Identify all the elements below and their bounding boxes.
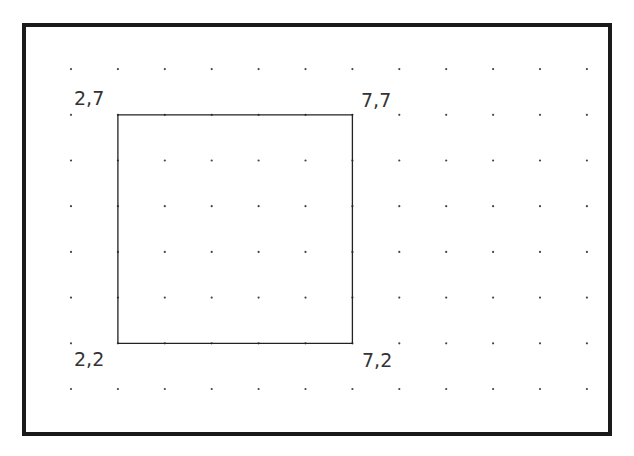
grid-dot [492, 388, 494, 390]
grid-dot [539, 297, 541, 299]
label-top-right: 7,7 [361, 89, 391, 111]
grid-dot [586, 205, 588, 207]
grid-dot [351, 68, 353, 70]
grid-dot [164, 68, 166, 70]
grid-dot [539, 114, 541, 116]
grid-dot [492, 297, 494, 299]
grid-dot [445, 68, 447, 70]
grid-dot [304, 205, 306, 207]
grid-dot [539, 388, 541, 390]
grid-dot [586, 159, 588, 161]
grid-dot [445, 205, 447, 207]
grid-dot [211, 388, 213, 390]
grid-dot [211, 251, 213, 253]
dot-grid-canvas: 2,7 7,7 2,2 7,2 [0, 0, 634, 456]
label-top-left: 2,7 [74, 87, 104, 109]
grid-dot [539, 159, 541, 161]
grid-dot [445, 114, 447, 116]
grid-dot [398, 251, 400, 253]
grid-dot [70, 297, 72, 299]
grid-dot [539, 68, 541, 70]
grid-dot [586, 68, 588, 70]
grid-dot [304, 388, 306, 390]
grid-dot [70, 205, 72, 207]
grid-dot [398, 205, 400, 207]
grid-dot [539, 251, 541, 253]
grid-dot [304, 251, 306, 253]
grid-dot [70, 114, 72, 116]
grid-dot [211, 205, 213, 207]
grid-dot [258, 205, 260, 207]
grid-dot [211, 297, 213, 299]
grid-dot [398, 342, 400, 344]
grid-dot [445, 251, 447, 253]
grid-dot [117, 68, 119, 70]
grid-dot [164, 251, 166, 253]
grid-dot [539, 342, 541, 344]
grid-dot [70, 68, 72, 70]
label-bottom-right: 7,2 [362, 349, 392, 371]
grid-dot [70, 342, 72, 344]
grid-dot [164, 205, 166, 207]
grid-dots [70, 68, 588, 390]
grid-dot [304, 297, 306, 299]
grid-dot [398, 68, 400, 70]
grid-dot [445, 159, 447, 161]
grid-dot [304, 159, 306, 161]
grid-dot [586, 342, 588, 344]
grid-dot [164, 297, 166, 299]
grid-dot [211, 68, 213, 70]
grid-dot [492, 159, 494, 161]
grid-dot [492, 342, 494, 344]
grid-dot [164, 159, 166, 161]
grid-dot [586, 388, 588, 390]
grid-dot [258, 251, 260, 253]
grid-dot [258, 68, 260, 70]
grid-dot [586, 114, 588, 116]
grid-dot [117, 388, 119, 390]
grid-dot [492, 205, 494, 207]
grid-dot [70, 388, 72, 390]
grid-dot [492, 114, 494, 116]
grid-dot [445, 342, 447, 344]
grid-dot [70, 159, 72, 161]
grid-dot [398, 159, 400, 161]
grid-dot [445, 297, 447, 299]
grid-dot [164, 388, 166, 390]
label-bottom-left: 2,2 [74, 348, 104, 370]
grid-dot [492, 251, 494, 253]
square-shape [118, 115, 353, 343]
grid-dot [586, 297, 588, 299]
grid-dot [398, 114, 400, 116]
grid-dot [70, 251, 72, 253]
grid-dot [586, 251, 588, 253]
grid-dot [492, 68, 494, 70]
grid-dot [258, 388, 260, 390]
grid-dot [258, 297, 260, 299]
grid-dot [539, 205, 541, 207]
grid-dot [258, 159, 260, 161]
grid-dot [304, 68, 306, 70]
grid-dot [445, 388, 447, 390]
grid-dot [398, 297, 400, 299]
grid-dot [211, 159, 213, 161]
grid-dot [351, 388, 353, 390]
grid-dot [398, 388, 400, 390]
